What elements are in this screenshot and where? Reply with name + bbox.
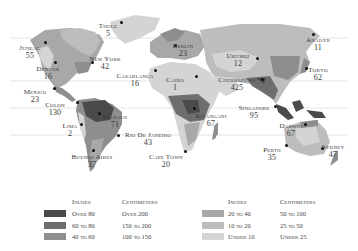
city-label: Urumqi12: [227, 52, 250, 68]
city-precipitation-value: 16: [116, 80, 153, 88]
city-label: Denver16: [37, 65, 60, 81]
city-precipitation-value: 20: [149, 161, 183, 169]
city-precipitation-value: 23: [173, 50, 194, 58]
city-precipitation-value: 35: [263, 154, 281, 162]
city-marker-icon: [261, 78, 264, 81]
city-label: Mexico23: [24, 88, 47, 104]
city-label: Rio de Janeiro43: [125, 131, 171, 147]
legend-swatch-over-80: [44, 210, 66, 217]
legend-label-inches: Under 10: [228, 233, 254, 240]
greenland: [110, 15, 160, 44]
city-precipitation-value: 37: [72, 161, 113, 169]
city-label: Thule5: [99, 22, 118, 38]
city-label: Anadyr11: [306, 36, 330, 52]
legend-label-cm: 100 to 150: [122, 233, 151, 240]
city-precipitation-value: 425: [218, 84, 255, 92]
legend-swatch-10-to-20: [202, 222, 224, 229]
city-marker-icon: [44, 41, 47, 44]
city-precipitation-value: 16: [37, 73, 60, 81]
city-label: Perth35: [263, 146, 281, 162]
city-label: Kisangani67: [195, 112, 226, 128]
legend-right-inches-header: Inches: [228, 198, 247, 205]
city-label: Cape Town20: [149, 153, 183, 169]
city-label: Cherrapunji425: [218, 76, 255, 92]
city-precipitation-value: 47: [322, 151, 345, 159]
legend-label-inches: Over 80: [72, 210, 95, 217]
legend-label-inches: 10 to 20: [228, 222, 251, 229]
city-marker-icon: [54, 61, 57, 64]
city-precipitation-value: 11: [306, 44, 330, 52]
city-marker-icon: [193, 107, 196, 110]
city-label: Sydney47: [322, 143, 345, 159]
city-precipitation-value: 1: [166, 84, 184, 92]
city-label: Berlin23: [173, 42, 194, 58]
city-label: Cairo1: [166, 76, 184, 92]
legend-left-cm-header: Centimeters: [122, 198, 157, 205]
city-label: Darwin67: [280, 122, 303, 138]
legend-label-cm: 25 to 50: [280, 222, 303, 229]
city-marker-icon: [76, 101, 79, 104]
city-label: Tokyo62: [308, 66, 328, 82]
city-label: Buenos Aires37: [72, 153, 113, 169]
legend-left-inches-header: Inches: [72, 198, 91, 205]
city-label: Singapore95: [239, 104, 270, 120]
city-precipitation-value: 95: [239, 112, 270, 120]
legend-label-inches: 20 to 40: [228, 210, 251, 217]
city-marker-icon: [256, 57, 259, 60]
city-label: Juneau55: [19, 44, 40, 60]
city-precipitation-value: 67: [195, 120, 226, 128]
city-label: New York42: [89, 55, 121, 71]
legend-label-inches: 40 to 60: [72, 233, 95, 240]
legend-label-cm: Over 200: [122, 210, 148, 217]
city-marker-icon: [92, 149, 95, 152]
legend-label-cm: 50 to 100: [280, 210, 306, 217]
city-precipitation-value: 55: [19, 52, 40, 60]
city-precipitation-value: 67: [280, 130, 303, 138]
city-precipitation-value: 5: [99, 30, 118, 38]
city-marker-icon: [98, 112, 101, 115]
city-label: Casablanca16: [116, 72, 153, 88]
legend-swatch-under-10: [202, 233, 224, 240]
city-precipitation-value: 71: [103, 121, 128, 129]
legend-label-cm: 150 to 200: [122, 222, 151, 229]
city-precipitation-value: 2: [63, 130, 78, 138]
city-precipitation-value: 23: [24, 96, 47, 104]
legend-swatch-20-to-40: [202, 210, 224, 217]
city-precipitation-value: 42: [89, 63, 121, 71]
city-marker-icon: [120, 21, 123, 24]
city-marker-icon: [285, 144, 288, 147]
legend-swatch-60-to-80: [44, 222, 66, 229]
city-marker-icon: [274, 105, 277, 108]
city-marker-icon: [117, 134, 120, 137]
legend-swatch-40-to-60: [44, 233, 66, 240]
legend-right-cm-header: Centimeters: [280, 198, 315, 205]
city-label: Lima2: [63, 122, 78, 138]
city-marker-icon: [184, 150, 187, 153]
city-precipitation-value: 12: [227, 60, 250, 68]
city-marker-icon: [195, 75, 198, 78]
city-label: Manaus71: [103, 113, 128, 129]
city-precipitation-value: 62: [308, 74, 328, 82]
city-marker-icon: [80, 123, 83, 126]
city-marker-icon: [53, 87, 56, 90]
legend-label-cm: Under 25: [280, 233, 306, 240]
legend-label-inches: 60 to 80: [72, 222, 95, 229]
city-precipitation-value: 130: [45, 109, 65, 117]
city-marker-icon: [304, 123, 307, 126]
city-label: Colon130: [45, 101, 65, 117]
city-precipitation-value: 43: [125, 139, 171, 147]
city-marker-icon: [154, 69, 157, 72]
southeast-asia-islands: [276, 100, 326, 120]
